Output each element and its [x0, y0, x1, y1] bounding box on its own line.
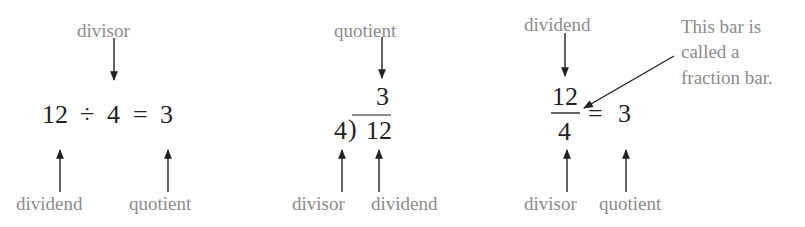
arrows-layer — [0, 0, 805, 227]
arrow-callout-icon — [584, 56, 674, 108]
